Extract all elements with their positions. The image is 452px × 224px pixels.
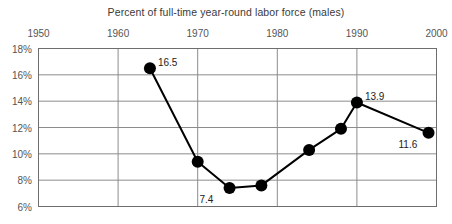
data-point-label: 7.4 [200,194,214,205]
data-point-label: 13.9 [365,91,384,102]
data-point-marker [255,179,267,191]
y-axis-tick-label: 10% [2,148,32,159]
x-axis-tick-label: 1980 [266,28,288,39]
data-point-marker [224,182,236,194]
y-axis-tick-label: 12% [2,122,32,133]
x-axis-tick-label: 1950 [27,28,49,39]
x-axis-tick-label: 2000 [425,28,447,39]
series-line [150,68,429,188]
x-axis-tick-label: 1990 [346,28,368,39]
data-point-marker [192,156,204,168]
x-axis-tick-label: 1960 [107,28,129,39]
x-axis-tick-label: 1970 [187,28,209,39]
data-point-marker [303,144,315,156]
y-axis-tick-label: 16% [2,69,32,80]
data-point-marker [351,96,363,108]
y-axis-tick-label: 6% [2,201,32,212]
y-axis-tick-label: 18% [2,43,32,54]
data-point-label: 11.6 [399,139,418,150]
chart-canvas [0,0,452,224]
y-axis-tick-label: 14% [2,96,32,107]
data-point-marker [335,123,347,135]
data-point-label: 16.5 [158,57,177,68]
chart-screenshot: Percent of full-time year-round labor fo… [0,0,452,224]
y-axis-tick-label: 8% [2,175,32,186]
chart-plot-area: 195019601970198019902000 18%16%14%12%10%… [0,0,452,224]
series-markers [144,62,435,194]
data-point-marker [144,62,156,74]
data-point-marker [423,127,435,139]
